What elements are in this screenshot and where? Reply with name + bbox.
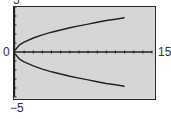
y-min-label: −5 xyxy=(10,102,24,114)
x-max-label: 15 xyxy=(158,46,171,58)
x-min-label: 0 xyxy=(3,46,10,58)
y-max-label: 5 xyxy=(13,0,20,6)
upper-curve xyxy=(15,18,125,50)
lower-curve xyxy=(15,54,125,86)
graph-canvas xyxy=(0,0,171,119)
